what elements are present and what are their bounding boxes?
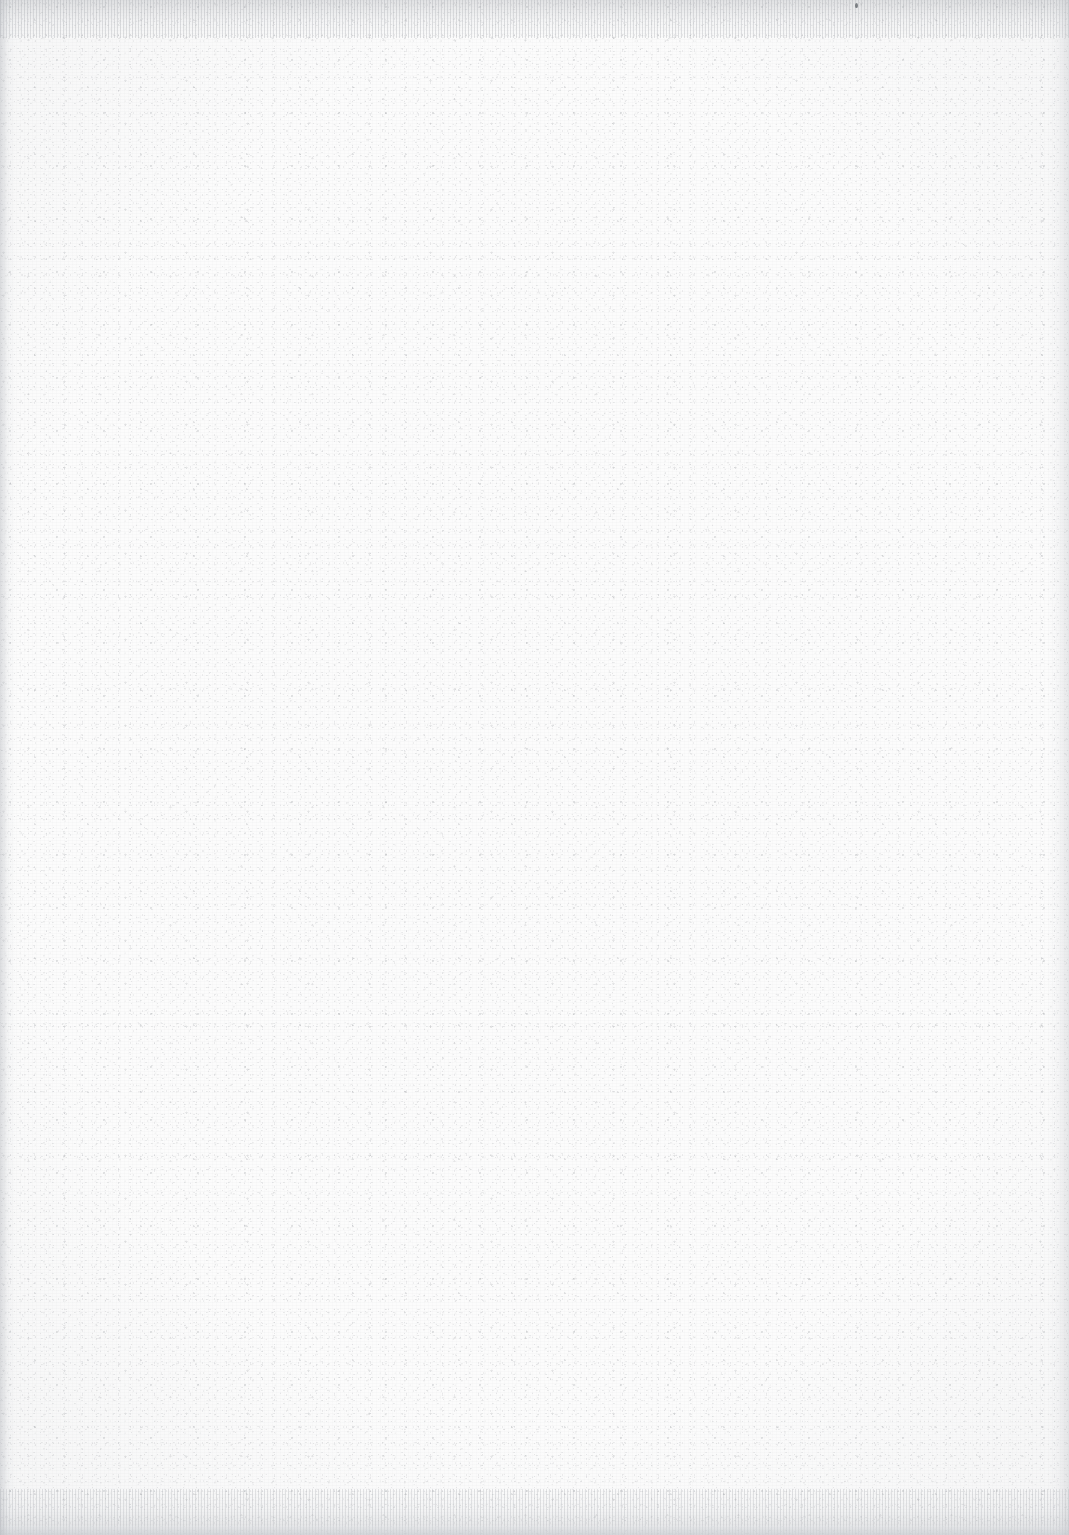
- dark-fleck-icon: [855, 3, 858, 8]
- page-vignette: [0, 0, 1069, 1535]
- right-gutter-shadow: [1047, 0, 1069, 1535]
- top-scan-artifact-band: [0, 0, 1069, 38]
- scanned-page: [0, 0, 1069, 1535]
- bottom-grey-strip: [0, 1526, 1069, 1535]
- left-gutter-shadow: [0, 0, 16, 1535]
